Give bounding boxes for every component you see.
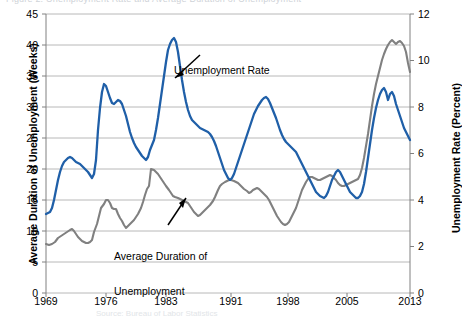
- x-tick-2013: 2013: [390, 296, 430, 307]
- left-axis: [42, 14, 46, 293]
- right-axis-title: Unemployment Rate (Percent): [450, 33, 462, 283]
- annotation-average-duration: Average Duration of Unemployment: [114, 228, 207, 317]
- right-axis: [410, 14, 414, 293]
- arrow-average-duration: [168, 198, 186, 225]
- x-tick-1991: 1991: [211, 296, 251, 307]
- right-tick-4: 4: [418, 195, 442, 205]
- x-tick-2005: 2005: [327, 296, 367, 307]
- right-tick-2: 2: [418, 241, 442, 251]
- annotation-average-duration-line-1: Average Duration of: [114, 251, 207, 263]
- figure-caption: Source: Bureau of Labor Statistics: [96, 309, 217, 317]
- x-tick-1998: 1998: [268, 296, 308, 307]
- left-axis-title: Average Duration of Unemployment (Weeks): [27, 29, 39, 279]
- annotation-unemployment-rate: Unemployment Rate: [174, 42, 270, 100]
- x-tick-1969: 1969: [26, 296, 66, 307]
- figure-title: Figure 2. Unemployment Rate and Average …: [6, 0, 301, 4]
- right-tick-6: 6: [418, 148, 442, 158]
- left-tick-45: 45: [14, 9, 38, 19]
- annotation-unemployment-rate-line-1: Unemployment Rate: [174, 65, 270, 77]
- annotation-average-duration-line-2: Unemployment: [114, 286, 207, 298]
- right-tick-12: 12: [418, 9, 442, 19]
- right-tick-8: 8: [418, 102, 442, 112]
- right-tick-10: 10: [418, 55, 442, 65]
